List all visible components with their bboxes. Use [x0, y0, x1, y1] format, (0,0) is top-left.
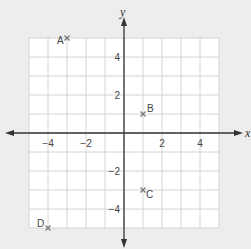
point-label: C — [146, 189, 153, 200]
x-tick-label: −4 — [42, 138, 54, 149]
coordinate-plane: xy −4−224−4−224 ABCD — [0, 0, 251, 249]
x-tick-label: −2 — [80, 138, 92, 149]
y-axis-label: y — [119, 5, 126, 19]
x-axis-arrow-right-icon — [234, 130, 243, 136]
point-label: D — [37, 218, 44, 229]
x-tick-label: 4 — [197, 138, 203, 149]
x-axis-arrow-left-icon — [5, 130, 14, 136]
y-tick-label: 2 — [114, 90, 120, 101]
point-label: A — [57, 35, 64, 46]
y-tick-label: 4 — [114, 52, 120, 63]
x-tick-label: 2 — [159, 138, 165, 149]
y-axis-arrow-down-icon — [121, 239, 127, 248]
point-label: B — [147, 103, 154, 114]
y-tick-label: −4 — [109, 204, 121, 215]
x-axis-label: x — [244, 126, 251, 140]
y-tick-label: −2 — [109, 166, 121, 177]
